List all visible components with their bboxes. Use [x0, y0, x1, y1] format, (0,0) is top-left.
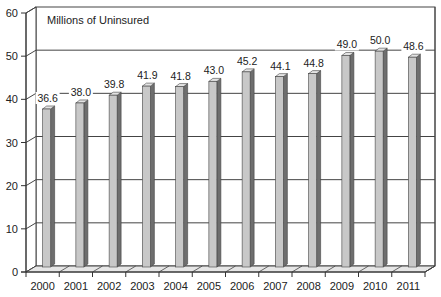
y-tick-label: 30	[6, 137, 18, 149]
y-tick-label: 40	[6, 93, 18, 105]
value-label: 43.0	[204, 64, 225, 76]
value-label: 41.9	[137, 69, 158, 81]
value-label: 41.8	[170, 70, 191, 82]
x-tick-label: 2001	[64, 280, 88, 292]
value-label: 49.0	[337, 38, 358, 50]
value-label: 38.0	[71, 86, 92, 98]
x-tick-label: 2002	[97, 280, 121, 292]
y-tick-label: 60	[6, 7, 18, 19]
value-label: 44.8	[303, 57, 324, 69]
value-label: 44.1	[270, 60, 291, 72]
x-tick-label: 2008	[296, 280, 320, 292]
x-tick-label: 2011	[397, 280, 421, 292]
x-tick-label: 2006	[230, 280, 254, 292]
bar-chart: 0102030405060 36.638.039.841.941.843.045…	[0, 0, 441, 297]
x-tick-label: 2005	[197, 280, 221, 292]
x-tick-label: 2004	[163, 280, 187, 292]
x-tick-label: 2009	[330, 280, 354, 292]
y-tick-label: 20	[6, 180, 18, 192]
x-tick-label: 2003	[130, 280, 154, 292]
x-tick-label: 2000	[30, 280, 54, 292]
value-label: 36.6	[37, 92, 58, 104]
x-tick-label: 2007	[263, 280, 287, 292]
y-axis: 0102030405060	[6, 7, 26, 278]
y-tick-label: 10	[6, 223, 18, 235]
x-tick-label: 2010	[363, 280, 387, 292]
value-label: 48.6	[403, 40, 424, 52]
value-label: 45.2	[237, 55, 258, 67]
y-tick-label: 0	[12, 266, 18, 278]
y-tick-label: 50	[6, 50, 18, 62]
value-label: 39.8	[104, 78, 125, 90]
value-label: 50.0	[370, 34, 391, 46]
chart-title: Millions of Uninsured	[47, 14, 149, 26]
